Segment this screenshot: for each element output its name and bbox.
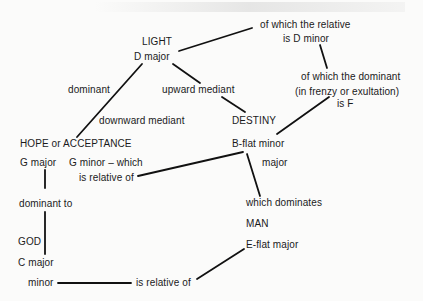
node-destiny-key: B-flat minor [232, 138, 284, 150]
g-minor-line1: G minor – which [69, 157, 143, 169]
edge-label-dominant: dominant [68, 84, 110, 96]
edge-relative-to-eflat [197, 249, 244, 279]
edge-dmajor-to-upward-mediant [173, 64, 200, 83]
node-hope-title: HOPE or ACCEPTANCE [20, 138, 132, 150]
node-light-key: D major [134, 51, 170, 63]
edge-f-to-bflat [277, 97, 329, 134]
edge-bflat-to-gminor [138, 152, 243, 176]
node-destiny-alt: major [262, 157, 288, 169]
node-hope-key: G major [20, 157, 56, 169]
node-god-key: C major [18, 257, 54, 269]
edge-dminor-to-dominant [320, 45, 327, 68]
dominant-note-line1: of which the dominant [301, 71, 400, 83]
node-man-title: MAN [246, 218, 269, 230]
edge-label-downward-mediant: downward mediant [99, 115, 185, 127]
edge-label-which-dominates: which dominates [246, 197, 322, 209]
edge-label-dominant-to: dominant to [19, 198, 72, 210]
edge-light-to-relative [179, 28, 252, 51]
edge-label-minor: minor [28, 277, 54, 289]
edge-label-upward-mediant: upward mediant [162, 84, 235, 96]
g-minor-line2: is relative of [79, 172, 134, 184]
relative-note-line1: of which the relative [260, 19, 350, 31]
node-man-key: E-flat major [246, 239, 298, 251]
edge-upward-mediant-to-destiny [222, 97, 245, 112]
node-destiny-title: DESTINY [232, 115, 276, 127]
dominant-note-line3: is F [337, 98, 354, 110]
relative-note-line2: is D minor [283, 33, 329, 45]
node-god-title: GOD [18, 236, 41, 248]
edge-label-is-relative-of: is relative of [136, 277, 191, 289]
connector-lines [0, 0, 423, 301]
dominant-note-line2: (in frenzy or exultation) [295, 86, 399, 98]
edge-bflat-to-which-dominates [247, 154, 260, 196]
node-light-title: LIGHT [142, 36, 172, 48]
